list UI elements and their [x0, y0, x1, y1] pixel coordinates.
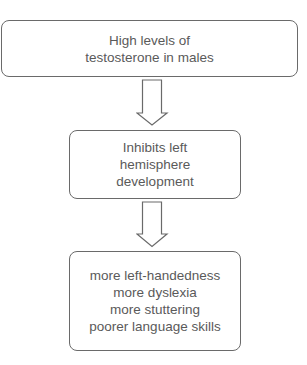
- node-text-line: High levels of: [109, 32, 190, 49]
- arrow-down-icon: [136, 201, 170, 249]
- node-text-line: testosterone in males: [85, 49, 213, 66]
- node-outcomes: more left-handedness more dyslexia more …: [69, 251, 241, 351]
- node-text-line: more stuttering: [110, 301, 200, 318]
- node-text-line: Inhibits left: [123, 139, 188, 156]
- node-text-line: more left-handedness: [90, 267, 221, 284]
- node-high-testosterone: High levels of testosterone in males: [1, 20, 298, 77]
- arrow-down-icon: [136, 79, 170, 127]
- node-text-line: poorer language skills: [89, 318, 220, 335]
- node-inhibits-left-hemisphere: Inhibits left hemisphere development: [69, 130, 241, 199]
- node-text-line: more dyslexia: [113, 284, 196, 301]
- node-text-line: hemisphere: [120, 156, 191, 173]
- node-text-line: development: [116, 173, 193, 190]
